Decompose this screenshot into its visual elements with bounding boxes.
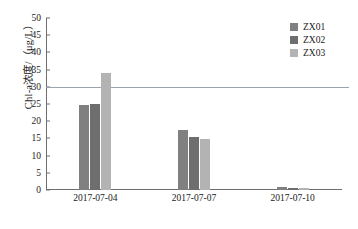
y-tick-label-5: 5 bbox=[36, 168, 46, 178]
y-tick-label-0: 0 bbox=[36, 185, 46, 195]
x-tick-label: 2017-07-04 bbox=[73, 193, 117, 203]
bar-ZX03 bbox=[299, 188, 309, 190]
bar-ZX03 bbox=[200, 139, 210, 190]
bar-ZX01 bbox=[178, 130, 188, 190]
x-tick-label: 2017-07-10 bbox=[270, 193, 314, 203]
y-tick-label-15: 15 bbox=[32, 133, 47, 143]
y-tick-label-50: 50 bbox=[32, 13, 47, 23]
bar-group bbox=[46, 18, 145, 190]
bar-ZX02 bbox=[288, 188, 298, 190]
bar-ZX02 bbox=[189, 137, 199, 190]
bar-group bbox=[145, 18, 244, 190]
legend-item-ZX02[interactable]: ZX02 bbox=[290, 34, 325, 45]
legend-swatch-icon bbox=[290, 49, 298, 57]
y-tick-label-40: 40 bbox=[32, 47, 47, 57]
y-tick-label-10: 10 bbox=[32, 151, 47, 161]
bar-set bbox=[79, 18, 111, 190]
legend: ZX01ZX02ZX03 bbox=[290, 21, 325, 60]
bar-ZX03 bbox=[101, 73, 111, 190]
y-tick-label-25: 25 bbox=[32, 99, 47, 109]
y-tick-label-45: 45 bbox=[32, 30, 47, 40]
legend-label: ZX02 bbox=[303, 35, 325, 45]
legend-swatch-icon bbox=[290, 36, 298, 44]
bar-set bbox=[178, 18, 210, 190]
y-tick-label-20: 20 bbox=[32, 116, 47, 126]
y-tick-label-35: 35 bbox=[32, 65, 47, 75]
bar-ZX01 bbox=[277, 187, 287, 190]
bar-ZX01 bbox=[79, 105, 89, 190]
legend-label: ZX03 bbox=[303, 48, 325, 58]
legend-swatch-icon bbox=[290, 23, 298, 31]
legend-item-ZX01[interactable]: ZX01 bbox=[290, 21, 325, 32]
x-tick-label: 2017-07-07 bbox=[172, 193, 216, 203]
bar-ZX02 bbox=[90, 104, 100, 190]
legend-item-ZX03[interactable]: ZX03 bbox=[290, 47, 325, 58]
y-tick-label-30: 30 bbox=[32, 82, 47, 92]
chart-container: Chl-a浓度/（μg/L） 05101520253035404550 2017… bbox=[0, 0, 358, 229]
legend-label: ZX01 bbox=[303, 22, 325, 32]
